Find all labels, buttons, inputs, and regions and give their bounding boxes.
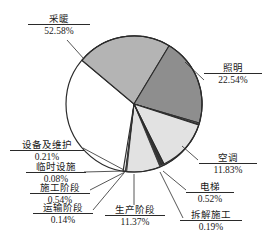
pie-label-air-conditioning: 空调 11.83% xyxy=(199,153,257,175)
pie-slices xyxy=(66,36,202,172)
pie-label-production-stage-name: 生产阶段 xyxy=(105,205,165,216)
pie-label-demolition-value: 0.19% xyxy=(180,221,242,232)
pie-label-elevator-name: 电梯 xyxy=(186,182,234,193)
pie-label-lighting-name: 照明 xyxy=(204,63,262,74)
leader-line-temporary-facilities xyxy=(84,171,125,172)
pie-label-lighting: 照明 22.54% xyxy=(204,63,262,85)
pie-label-temporary-facilities: 临时设施 0.08% xyxy=(26,162,86,184)
pie-label-elevator-value: 0.52% xyxy=(186,193,234,204)
pie-label-construction-stage-value: 0.54% xyxy=(30,194,90,205)
pie-label-elevator: 电梯 0.52% xyxy=(186,182,234,204)
pie-label-air-conditioning-value: 11.83% xyxy=(199,164,257,175)
pie-label-temporary-facilities-value: 0.08% xyxy=(26,173,86,184)
pie-label-heating: 采暖 52.58% xyxy=(28,14,90,36)
pie-label-production-stage-value: 11.37% xyxy=(105,216,165,227)
leader-line-air-conditioning xyxy=(182,146,198,160)
pie-label-temporary-facilities-name: 临时设施 xyxy=(26,162,86,173)
pie-label-demolition-name: 拆解施工 xyxy=(180,210,242,221)
pie-label-construction-stage: 施工阶段 0.54% xyxy=(30,183,90,205)
pie-chart-figure: 采暖 52.58% 照明 22.54% 空调 11.83% 电梯 0.52% 拆… xyxy=(0,0,265,248)
pie-label-air-conditioning-name: 空调 xyxy=(199,153,257,164)
pie-label-transport-stage: 运输阶段 0.14% xyxy=(33,203,93,225)
pie-label-equipment-maintenance: 设备及维护 0.21% xyxy=(10,140,84,162)
pie-label-production-stage: 生产阶段 11.37% xyxy=(105,205,165,227)
pie-label-transport-stage-value: 0.14% xyxy=(33,214,93,225)
pie-label-equipment-maintenance-name: 设备及维护 xyxy=(10,140,84,151)
pie-label-construction-stage-name: 施工阶段 xyxy=(30,183,90,194)
leader-line-elevator xyxy=(163,171,186,190)
pie-label-equipment-maintenance-value: 0.21% xyxy=(10,151,84,162)
pie-label-demolition: 拆解施工 0.19% xyxy=(180,210,242,232)
leader-line-heating xyxy=(67,40,84,59)
pie-label-heating-name: 采暖 xyxy=(28,14,90,25)
pie-label-heating-value: 52.58% xyxy=(28,25,90,36)
leader-line-construction-stage xyxy=(90,172,125,190)
leader-line-equipment-maintenance xyxy=(83,148,124,170)
pie-label-lighting-value: 22.54% xyxy=(204,74,262,85)
